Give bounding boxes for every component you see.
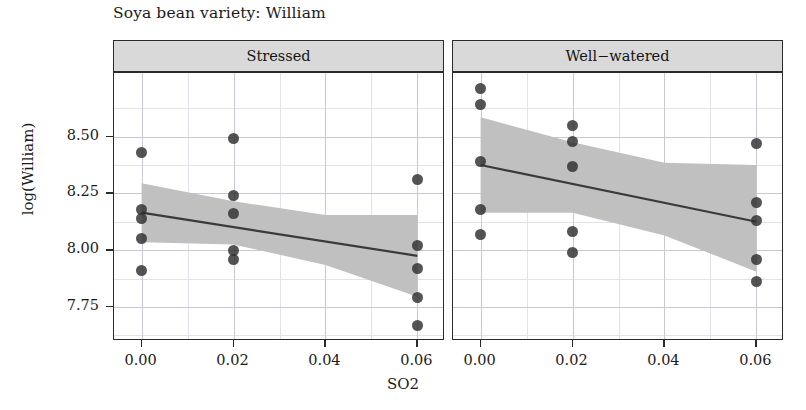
facet-strip-stressed: Stressed: [113, 40, 444, 72]
data-point: [567, 120, 578, 131]
data-point: [136, 213, 147, 224]
facet-panel-well-watered: [452, 72, 783, 340]
y-axis-tick-label: 8.25: [39, 183, 99, 199]
x-axis-tick: [755, 340, 757, 347]
x-axis-tick-label: 0.06: [386, 352, 446, 368]
x-axis-tick: [572, 340, 574, 347]
facet-strip-well-watered: Well−watered: [452, 40, 783, 72]
x-axis-tick-label: 0.00: [111, 352, 171, 368]
x-axis-tick-label: 0.02: [542, 352, 602, 368]
data-point: [751, 197, 762, 208]
y-axis-tick-label: 8.50: [39, 127, 99, 143]
x-axis-label: SO2: [0, 375, 806, 393]
data-point: [475, 204, 486, 215]
y-axis-tick: [106, 306, 113, 308]
chart-root: Soya bean variety: William log(William) …: [0, 0, 806, 410]
confidence-ribbon: [453, 73, 782, 339]
data-point: [412, 240, 423, 251]
confidence-ribbon: [114, 73, 443, 339]
data-point: [751, 215, 762, 226]
x-axis-tick: [141, 340, 143, 347]
data-point: [567, 136, 578, 147]
x-axis-tick: [663, 340, 665, 347]
y-axis-tick: [106, 249, 113, 251]
facet-strip-label: Stressed: [246, 48, 310, 64]
data-point: [228, 254, 239, 265]
x-axis-tick-label: 0.02: [203, 352, 263, 368]
x-axis-tick: [233, 340, 235, 347]
facet-panel-stressed: [113, 72, 444, 340]
x-axis-tick-label: 0.04: [633, 352, 693, 368]
y-axis-tick: [106, 136, 113, 138]
data-point: [567, 161, 578, 172]
y-axis-tick: [106, 192, 113, 194]
data-point: [412, 263, 423, 274]
chart-title: Soya bean variety: William: [113, 4, 326, 22]
data-point: [136, 147, 147, 158]
y-axis-tick-label: 8.00: [39, 240, 99, 256]
data-point: [751, 254, 762, 265]
y-axis-tick-label: 7.75: [39, 297, 99, 313]
data-point: [475, 229, 486, 240]
y-axis-label: log(William): [19, 79, 37, 259]
x-axis-tick: [416, 340, 418, 347]
x-axis-tick: [324, 340, 326, 347]
x-axis-tick-label: 0.06: [725, 352, 785, 368]
data-point: [412, 320, 423, 331]
facet-strip-label: Well−watered: [566, 48, 670, 64]
x-axis-tick-label: 0.00: [450, 352, 510, 368]
x-axis-tick: [480, 340, 482, 347]
data-point: [567, 247, 578, 258]
x-axis-tick-label: 0.04: [294, 352, 354, 368]
data-point: [751, 138, 762, 149]
